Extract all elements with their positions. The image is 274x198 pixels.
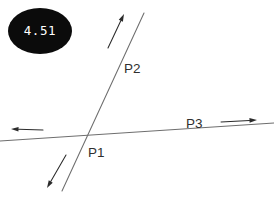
label-p2: P2	[124, 61, 141, 76]
arrow-p3-left-icon	[11, 127, 43, 132]
line-p3	[0, 123, 274, 141]
label-p1: P1	[88, 145, 105, 160]
arrow-p2-down-icon	[47, 155, 66, 188]
arrow-p3-right-icon	[221, 118, 257, 123]
diagram-canvas: 4.51 P2 P1 P3	[0, 0, 274, 198]
arrow-p2-up-icon	[108, 14, 124, 48]
value-badge: 4.51	[8, 8, 72, 54]
label-p3: P3	[186, 116, 203, 131]
badge-value-text: 4.51	[24, 23, 57, 38]
line-p2	[62, 13, 144, 191]
geometry-figure: 4.51 P2 P1 P3	[0, 0, 274, 198]
